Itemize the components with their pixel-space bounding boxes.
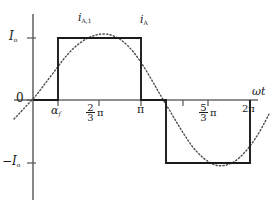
y-axis-label-negative: −Io: [2, 155, 20, 167]
tick-label-alpha-f: αf: [51, 105, 61, 116]
waveform-figure: Io −Io 0 αf 2 3 π π 5 3 π 2π ωt iA,1 iA: [0, 0, 279, 209]
y-axis-label-negative-base: −I: [2, 154, 17, 168]
fraction-five-thirds: 5 3: [199, 103, 208, 123]
curve-label-fundamental-sub: A,1: [82, 17, 92, 24]
tick-label-two-thirds-pi-symbol: π: [95, 108, 104, 118]
tick-label-alpha-sub: f: [58, 110, 60, 117]
fraction-denominator: 3: [86, 113, 95, 123]
x-axis-label-omega-t: ωt: [252, 86, 265, 97]
curve-label-square-base: i: [140, 13, 144, 26]
tick-label-two-pi: 2π: [242, 104, 255, 114]
tick-label-five-thirds-pi: 5 3 π: [199, 103, 217, 123]
tick-label-two-thirds-pi: 2 3 π: [86, 103, 104, 123]
curve-label-square: iA: [140, 14, 148, 25]
fraction-two-thirds: 2 3: [86, 103, 95, 123]
y-axis-label-positive-sub: o: [14, 36, 18, 43]
curve-label-fundamental: iA,1: [78, 12, 92, 23]
y-axis-label-negative-sub: o: [17, 161, 21, 168]
y-axis-label-positive: Io: [9, 30, 17, 42]
tick-label-five-thirds-pi-symbol: π: [208, 108, 217, 118]
curve-label-square-sub: A: [144, 19, 148, 26]
origin-label: 0: [16, 92, 24, 104]
fraction-numerator: 5: [199, 103, 208, 112]
tick-label-pi: π: [137, 104, 144, 115]
fraction-numerator: 2: [86, 103, 95, 112]
curve-label-fundamental-base: i: [78, 11, 82, 24]
fraction-denominator: 3: [199, 113, 208, 123]
